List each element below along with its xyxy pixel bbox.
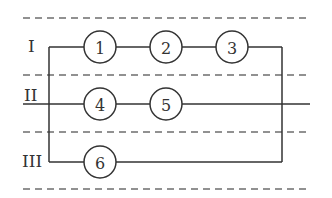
component-4: 4 (84, 88, 116, 120)
svg-text:1: 1 (95, 39, 105, 58)
component-1: 1 (84, 31, 116, 63)
row-label-2: II (24, 85, 37, 105)
svg-text:3: 3 (227, 39, 237, 58)
svg-text:4: 4 (95, 96, 105, 115)
component-6: 6 (84, 146, 116, 178)
row-label-1: I (28, 36, 35, 56)
row-label-3: III (22, 151, 42, 171)
svg-text:6: 6 (95, 154, 105, 173)
svg-text:2: 2 (161, 39, 171, 58)
component-3: 3 (216, 31, 248, 63)
component-2: 2 (150, 31, 182, 63)
component-5: 5 (150, 88, 182, 120)
svg-text:5: 5 (161, 96, 171, 115)
circuit-diagram: I II III 1 2 3 4 5 6 (0, 0, 332, 198)
